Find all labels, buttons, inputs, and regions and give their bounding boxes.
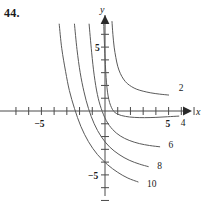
curve-value-labels: 246810 bbox=[147, 83, 186, 189]
y-axis-label: y bbox=[99, 4, 105, 15]
curve-family bbox=[59, 22, 179, 182]
y-tick-label-5: 5 bbox=[95, 43, 100, 53]
curve-8 bbox=[74, 24, 148, 166]
x-tick-label--5: −5 bbox=[34, 119, 44, 129]
curve-2 bbox=[112, 22, 169, 95]
curve-label-2: 2 bbox=[179, 83, 184, 93]
curve-label-8: 8 bbox=[157, 161, 162, 171]
y-tick-label--5: −5 bbox=[88, 171, 98, 181]
y-axis-arrowhead bbox=[101, 15, 110, 24]
x-axis-arrowhead bbox=[183, 107, 192, 116]
coordinate-plot: −55 5−5 246810 x y bbox=[0, 0, 208, 203]
curve-label-4: 4 bbox=[181, 118, 186, 128]
x-tick-label-5: 5 bbox=[166, 119, 171, 129]
curve-label-10: 10 bbox=[147, 179, 157, 189]
x-axis-label: x bbox=[195, 106, 201, 117]
figure-container: 44. −55 5−5 246810 x y bbox=[0, 0, 208, 203]
curve-4 bbox=[104, 24, 179, 118]
curve-label-6: 6 bbox=[169, 140, 174, 150]
